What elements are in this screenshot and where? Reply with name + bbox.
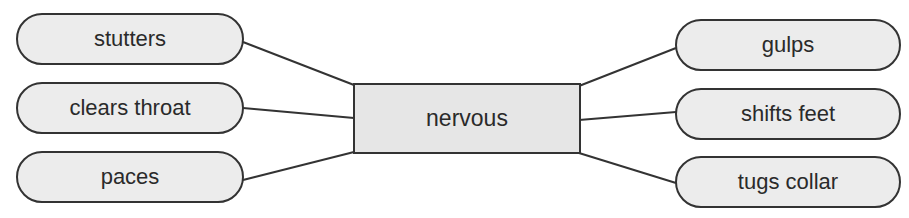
node-label: paces xyxy=(101,164,160,190)
connector-tugs-collar xyxy=(579,153,676,183)
node-clears-throat: clears throat xyxy=(16,82,244,134)
center-label: nervous xyxy=(426,105,508,132)
node-label: stutters xyxy=(94,26,166,52)
node-label: gulps xyxy=(762,32,815,58)
node-gulps: gulps xyxy=(675,19,901,71)
connector-shifts-feet xyxy=(579,112,676,120)
connector-clears-throat xyxy=(243,108,354,118)
node-shifts-feet: shifts feet xyxy=(675,88,901,140)
connector-stutters xyxy=(243,42,354,85)
center-node: nervous xyxy=(353,83,581,154)
node-stutters: stutters xyxy=(16,13,244,65)
node-paces: paces xyxy=(16,151,244,203)
connector-paces xyxy=(243,152,354,180)
node-label: clears throat xyxy=(69,95,190,121)
connector-gulps xyxy=(579,48,676,86)
node-tugs-collar: tugs collar xyxy=(675,156,901,208)
node-label: shifts feet xyxy=(741,101,835,127)
node-label: tugs collar xyxy=(738,169,838,195)
